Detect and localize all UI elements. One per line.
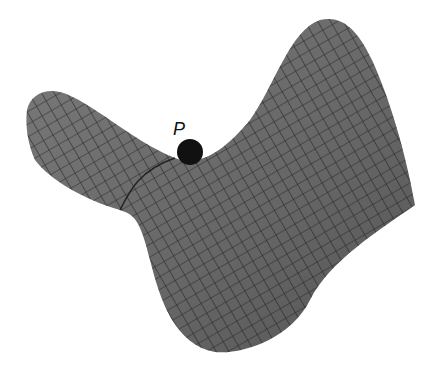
saddle-surface — [26, 19, 415, 352]
point-label: P — [173, 119, 185, 139]
point-ball — [177, 139, 203, 165]
saddle-diagram: P — [0, 0, 444, 368]
